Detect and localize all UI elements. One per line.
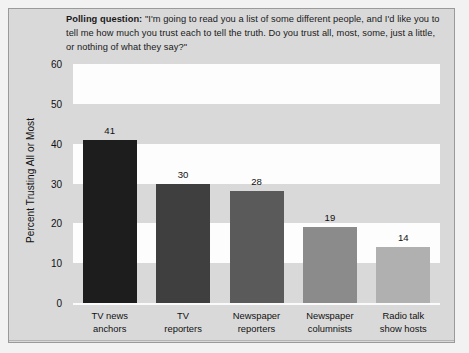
- bar-2: [230, 191, 284, 303]
- x-axis-label: TVreporters: [141, 309, 225, 335]
- bar-value-label: 19: [300, 212, 360, 223]
- bar-1: [156, 184, 210, 304]
- polling-question-title: Polling question: "I'm going to read you…: [66, 12, 446, 55]
- bar-4: [376, 247, 430, 303]
- bar-value-label: 14: [373, 232, 433, 243]
- bar-0: [83, 140, 137, 303]
- x-axis-label: Newspaperreporters: [215, 309, 299, 335]
- x-axis-label: Newspapercolumnists: [288, 309, 372, 335]
- bar-3: [303, 227, 357, 303]
- plot-band-2: [73, 64, 440, 104]
- bar-value-label: 30: [153, 169, 213, 180]
- bar-value-label: 41: [80, 125, 140, 136]
- bottom-divider: [9, 340, 454, 341]
- question-label: Polling question:: [66, 14, 142, 24]
- x-axis-baseline: [73, 303, 440, 305]
- x-axis-label: Radio talkshow hosts: [361, 309, 445, 335]
- y-tick-label: 30: [51, 178, 62, 189]
- y-tick-label: 50: [51, 98, 62, 109]
- bar-value-label: 28: [227, 176, 287, 187]
- y-tick-label: 40: [51, 138, 62, 149]
- chart-figure: Polling question: "I'm going to read you…: [0, 0, 469, 353]
- y-axis-ticks: 0102030405060: [33, 64, 67, 303]
- y-tick-label: 10: [51, 258, 62, 269]
- y-tick-label: 0: [56, 298, 62, 309]
- y-tick-label: 60: [51, 59, 62, 70]
- y-tick-label: 20: [51, 218, 62, 229]
- x-axis-label: TV newsanchors: [68, 309, 152, 335]
